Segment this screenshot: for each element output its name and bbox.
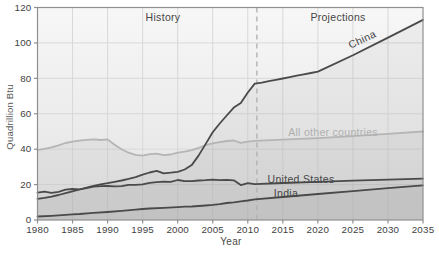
y-tick-label: 20 — [20, 179, 32, 190]
y-axis-label: Quadrillion Btu — [4, 84, 15, 149]
x-tick-label: 2020 — [307, 224, 330, 235]
y-tick-label: 60 — [20, 108, 32, 119]
x-tick-label: 2035 — [412, 224, 435, 235]
x-tick-label: 2005 — [201, 224, 224, 235]
projections-region-label: Projections — [310, 11, 365, 23]
x-tick-label: 2000 — [166, 224, 189, 235]
x-tick-label: 2025 — [342, 224, 365, 235]
x-tick-label: 1990 — [96, 224, 119, 235]
chart-figure: 1980198519901995200020052010201520202025… — [0, 0, 439, 256]
y-tick-label: 0 — [26, 214, 32, 225]
y-tick-label: 120 — [15, 2, 32, 13]
series-label-all-other-countries: All other countries — [288, 126, 378, 138]
series-label-united-states: United States — [268, 173, 335, 185]
y-tick-label: 100 — [15, 37, 32, 48]
x-tick-label: 1995 — [131, 224, 154, 235]
x-tick-label: 2030 — [377, 224, 400, 235]
series-label-india: India — [274, 187, 298, 199]
history-region-label: History — [146, 11, 181, 23]
x-tick-label: 2015 — [272, 224, 295, 235]
x-tick-label: 2010 — [236, 224, 259, 235]
x-tick-label: 1985 — [61, 224, 84, 235]
x-axis-label: Year — [220, 236, 241, 247]
x-tick-label: 1980 — [26, 224, 49, 235]
y-tick-label: 80 — [20, 73, 32, 84]
y-tick-label: 40 — [20, 143, 32, 154]
